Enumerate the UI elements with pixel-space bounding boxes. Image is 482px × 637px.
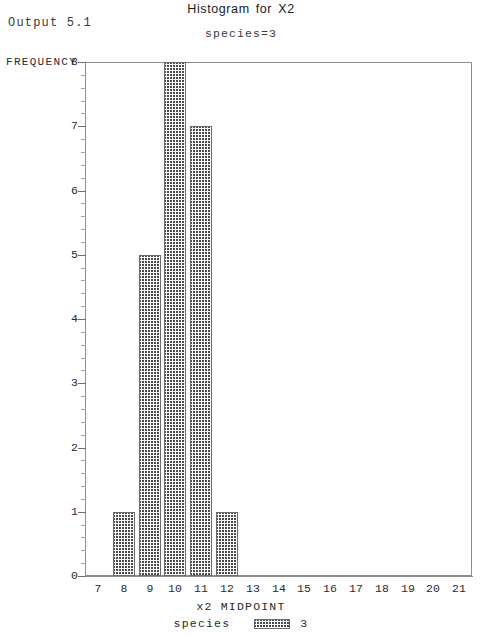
y-tick-minor: [81, 422, 86, 423]
x-tick-label: 21: [444, 582, 474, 595]
y-tick-minor: [81, 358, 86, 359]
y-tick-minor: [81, 293, 86, 294]
y-tick-major: [78, 448, 86, 449]
y-tick-major: [78, 576, 86, 577]
y-tick-minor: [81, 216, 86, 217]
y-tick-minor: [81, 165, 86, 166]
y-tick-major: [78, 255, 86, 256]
y-tick-major: [78, 191, 86, 192]
y-tick-minor: [81, 268, 86, 269]
y-tick-minor: [81, 88, 86, 89]
x-axis-line: [85, 576, 473, 577]
y-tick-minor: [81, 486, 86, 487]
histogram-bar: [139, 255, 161, 576]
histogram-bar: [164, 62, 186, 576]
histogram-page: Output 5.1 Histogram for X2 species=3 FR…: [0, 0, 482, 637]
y-tick-minor: [81, 152, 86, 153]
legend-title: species: [174, 617, 231, 630]
y-tick-minor: [81, 203, 86, 204]
y-tick-minor: [81, 396, 86, 397]
legend-swatch-icon: [254, 619, 290, 629]
y-tick-major: [78, 383, 86, 384]
y-tick-major: [78, 126, 86, 127]
y-tick-label: 2: [4, 441, 78, 454]
y-tick-minor: [81, 101, 86, 102]
y-tick-label: 4: [4, 312, 78, 325]
y-tick-major: [78, 512, 86, 513]
y-tick-minor: [81, 409, 86, 410]
y-tick-minor: [81, 75, 86, 76]
y-tick-minor: [81, 332, 86, 333]
y-tick-label: 5: [4, 248, 78, 261]
y-tick-minor: [81, 460, 86, 461]
y-tick-minor: [81, 499, 86, 500]
y-tick-minor: [81, 473, 86, 474]
y-tick-label: 3: [4, 376, 78, 389]
y-tick-minor: [81, 242, 86, 243]
y-tick-minor: [81, 306, 86, 307]
y-axis-tick-group: 012345678: [0, 0, 78, 637]
y-tick-minor: [81, 280, 86, 281]
y-tick-minor: [81, 229, 86, 230]
y-tick-minor: [81, 139, 86, 140]
legend-value: 3: [300, 617, 308, 630]
y-tick-label: 8: [4, 55, 78, 68]
y-tick-minor: [81, 525, 86, 526]
y-tick-minor: [81, 537, 86, 538]
y-tick-minor: [81, 563, 86, 564]
y-tick-minor: [81, 113, 86, 114]
y-tick-label: 7: [4, 119, 78, 132]
y-tick-label: 0: [4, 569, 78, 582]
y-tick-label: 6: [4, 184, 78, 197]
legend: species3: [0, 617, 482, 630]
histogram-bar: [113, 512, 135, 576]
y-tick-minor: [81, 370, 86, 371]
y-tick-major: [78, 62, 86, 63]
y-tick-minor: [81, 345, 86, 346]
y-tick-minor: [81, 435, 86, 436]
y-tick-minor: [81, 178, 86, 179]
y-tick-label: 1: [4, 505, 78, 518]
histogram-bar: [216, 512, 238, 576]
y-tick-minor: [81, 550, 86, 551]
y-tick-major: [78, 319, 86, 320]
histogram-bar: [190, 126, 212, 576]
